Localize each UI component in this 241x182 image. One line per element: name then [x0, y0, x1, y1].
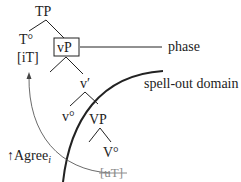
- node-t-feature: [iT]: [17, 50, 39, 65]
- tree-svg: TP T° [iT] vP v′ v° VP V° [uT] phase spe…: [0, 0, 241, 182]
- agree-label: ↑Agreei: [7, 148, 51, 165]
- spellout-domain-label: spell-out domain: [144, 76, 239, 91]
- node-t-head: T°: [19, 32, 33, 47]
- arrowhead-icon: [27, 72, 32, 79]
- node-big-v-head: V°: [103, 145, 119, 160]
- syntax-tree-diagram: TP T° [iT] vP v′ v° VP V° [uT] phase spe…: [0, 0, 241, 182]
- node-vp-phase: vP: [57, 40, 72, 55]
- node-v-head: v°: [62, 109, 75, 124]
- node-tp: TP: [35, 4, 52, 19]
- phase-label: phase: [168, 39, 200, 54]
- node-v-bar: v′: [80, 76, 90, 91]
- node-big-vp: VP: [89, 112, 107, 127]
